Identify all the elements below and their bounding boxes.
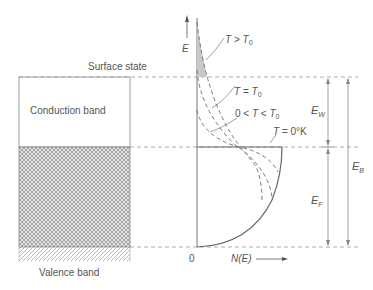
valence-band-label: Valence band xyxy=(39,267,99,278)
surface-state-label: Surface state xyxy=(88,61,147,72)
arrowheads xyxy=(326,78,350,246)
svg-text:T > T0: T > T0 xyxy=(225,34,253,46)
n-e-axis-label: N(E) xyxy=(231,253,288,264)
ef-label: EF xyxy=(311,194,323,208)
svg-text:EF: EF xyxy=(311,194,323,208)
label-t-between: 0 < T < T0 xyxy=(235,108,280,120)
svg-text:T = 0°K: T = 0°K xyxy=(273,126,307,137)
eb-label: EB xyxy=(352,160,364,174)
svg-text:EB: EB xyxy=(352,160,364,174)
label-t-equal: T = T0 xyxy=(234,86,262,98)
origin-label: 0 xyxy=(189,253,195,264)
ew-label: EW xyxy=(311,104,326,118)
svg-text:T = T0: T = T0 xyxy=(234,86,262,98)
band-diagram-figure: Surface state Conduction band Valence ba… xyxy=(0,0,373,290)
valence-filled-region xyxy=(19,147,130,247)
dimension-arrows xyxy=(322,79,348,245)
label-t-zero: T = 0°K xyxy=(273,126,307,137)
label-t-greater: T > T0 xyxy=(225,34,253,46)
conduction-band-label: Conduction band xyxy=(30,105,106,116)
curve-t-between xyxy=(197,110,278,172)
energy-axis-label: E xyxy=(182,43,189,54)
svg-text:N(E): N(E) xyxy=(231,253,252,264)
valence-hatched-strip xyxy=(19,247,130,261)
svg-text:EW: EW xyxy=(311,104,326,118)
curve-t-zero xyxy=(197,147,282,247)
svg-text:0 < T < T0: 0 < T < T0 xyxy=(235,108,280,120)
